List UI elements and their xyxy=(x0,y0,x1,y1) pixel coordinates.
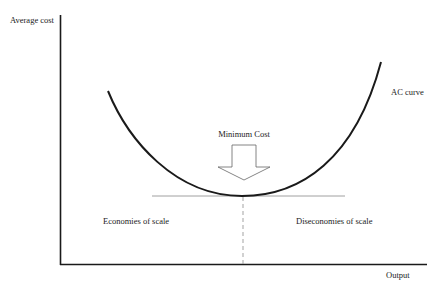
diseconomies-of-scale-label: Diseconomies of scale xyxy=(296,216,373,226)
minimum-cost-label: Minimum Cost xyxy=(218,129,270,139)
y-axis-label: Average cost xyxy=(10,15,55,25)
arrow-down-icon xyxy=(218,145,270,180)
x-axis-label: Output xyxy=(386,270,410,280)
ac-curve-label: AC curve xyxy=(391,87,424,97)
average-cost-diagram: Average cost Output AC curve Minimum Cos… xyxy=(0,0,437,288)
economies-of-scale-label: Economies of scale xyxy=(103,216,169,226)
